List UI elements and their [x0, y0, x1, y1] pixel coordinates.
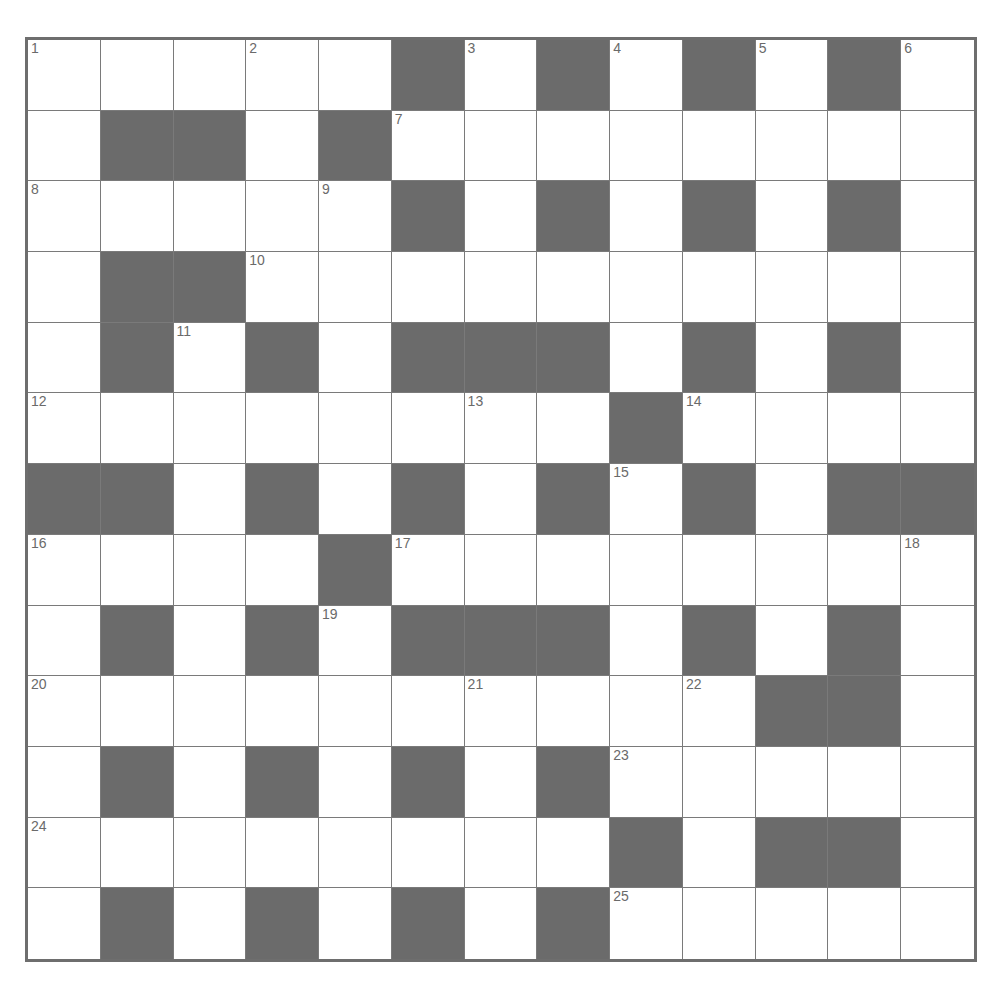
crossword-cell[interactable] [319, 818, 392, 889]
crossword-cell[interactable]: 9 [319, 181, 392, 252]
crossword-cell[interactable]: 1 [28, 40, 101, 111]
crossword-cell[interactable] [174, 606, 247, 677]
crossword-cell[interactable] [465, 747, 538, 818]
crossword-cell[interactable] [319, 40, 392, 111]
crossword-cell[interactable] [101, 181, 174, 252]
crossword-cell[interactable] [683, 888, 756, 959]
crossword-cell[interactable]: 24 [28, 818, 101, 889]
crossword-cell[interactable] [901, 252, 974, 323]
crossword-cell[interactable]: 19 [319, 606, 392, 677]
crossword-cell[interactable] [28, 252, 101, 323]
crossword-cell[interactable] [174, 818, 247, 889]
crossword-cell[interactable]: 11 [174, 323, 247, 394]
crossword-cell[interactable]: 5 [756, 40, 829, 111]
crossword-cell[interactable] [537, 676, 610, 747]
crossword-cell[interactable] [756, 464, 829, 535]
crossword-cell[interactable]: 14 [683, 393, 756, 464]
crossword-cell[interactable] [246, 676, 319, 747]
crossword-cell[interactable] [901, 747, 974, 818]
crossword-cell[interactable] [465, 818, 538, 889]
crossword-cell[interactable] [537, 111, 610, 182]
crossword-cell[interactable] [756, 393, 829, 464]
crossword-cell[interactable] [828, 535, 901, 606]
crossword-cell[interactable] [174, 888, 247, 959]
crossword-cell[interactable]: 20 [28, 676, 101, 747]
crossword-cell[interactable] [683, 535, 756, 606]
crossword-cell[interactable] [756, 111, 829, 182]
crossword-cell[interactable] [828, 747, 901, 818]
crossword-cell[interactable] [610, 252, 683, 323]
crossword-cell[interactable] [174, 676, 247, 747]
crossword-cell[interactable] [246, 818, 319, 889]
crossword-cell[interactable] [28, 747, 101, 818]
crossword-cell[interactable]: 4 [610, 40, 683, 111]
crossword-cell[interactable] [465, 181, 538, 252]
crossword-cell[interactable] [174, 464, 247, 535]
crossword-cell[interactable]: 25 [610, 888, 683, 959]
crossword-cell[interactable]: 10 [246, 252, 319, 323]
crossword-cell[interactable]: 16 [28, 535, 101, 606]
crossword-cell[interactable] [756, 181, 829, 252]
crossword-cell[interactable] [901, 818, 974, 889]
crossword-cell[interactable]: 15 [610, 464, 683, 535]
crossword-cell[interactable] [319, 252, 392, 323]
crossword-cell[interactable] [683, 818, 756, 889]
crossword-cell[interactable] [537, 818, 610, 889]
crossword-cell[interactable] [683, 252, 756, 323]
crossword-cell[interactable] [174, 181, 247, 252]
crossword-cell[interactable] [465, 535, 538, 606]
crossword-cell[interactable] [28, 606, 101, 677]
crossword-cell[interactable] [465, 111, 538, 182]
crossword-cell[interactable] [756, 535, 829, 606]
crossword-cell[interactable] [610, 111, 683, 182]
crossword-cell[interactable] [756, 606, 829, 677]
crossword-cell[interactable] [392, 676, 465, 747]
crossword-cell[interactable] [319, 888, 392, 959]
crossword-cell[interactable] [174, 393, 247, 464]
crossword-cell[interactable] [101, 393, 174, 464]
crossword-cell[interactable] [465, 464, 538, 535]
crossword-cell[interactable] [537, 535, 610, 606]
crossword-cell[interactable] [537, 393, 610, 464]
crossword-cell[interactable] [319, 393, 392, 464]
crossword-cell[interactable] [101, 818, 174, 889]
crossword-cell[interactable] [683, 747, 756, 818]
crossword-cell[interactable] [319, 676, 392, 747]
crossword-cell[interactable]: 21 [465, 676, 538, 747]
crossword-cell[interactable] [828, 393, 901, 464]
crossword-cell[interactable] [901, 393, 974, 464]
crossword-cell[interactable] [828, 252, 901, 323]
crossword-cell[interactable] [610, 606, 683, 677]
crossword-cell[interactable] [246, 181, 319, 252]
crossword-cell[interactable] [756, 252, 829, 323]
crossword-cell[interactable] [392, 818, 465, 889]
crossword-cell[interactable] [901, 676, 974, 747]
crossword-cell[interactable]: 6 [901, 40, 974, 111]
crossword-cell[interactable] [101, 676, 174, 747]
crossword-cell[interactable] [28, 323, 101, 394]
crossword-cell[interactable] [28, 111, 101, 182]
crossword-cell[interactable] [901, 606, 974, 677]
crossword-cell[interactable] [246, 393, 319, 464]
crossword-cell[interactable] [174, 535, 247, 606]
crossword-cell[interactable] [901, 181, 974, 252]
crossword-cell[interactable] [756, 747, 829, 818]
crossword-cell[interactable] [610, 676, 683, 747]
crossword-cell[interactable] [901, 888, 974, 959]
crossword-cell[interactable] [610, 181, 683, 252]
crossword-cell[interactable] [828, 111, 901, 182]
crossword-cell[interactable]: 17 [392, 535, 465, 606]
crossword-cell[interactable] [319, 747, 392, 818]
crossword-cell[interactable]: 22 [683, 676, 756, 747]
crossword-cell[interactable]: 2 [246, 40, 319, 111]
crossword-cell[interactable]: 7 [392, 111, 465, 182]
crossword-cell[interactable] [756, 888, 829, 959]
crossword-cell[interactable] [465, 252, 538, 323]
crossword-cell[interactable] [101, 535, 174, 606]
crossword-cell[interactable] [246, 111, 319, 182]
crossword-cell[interactable]: 13 [465, 393, 538, 464]
crossword-cell[interactable] [683, 111, 756, 182]
crossword-cell[interactable] [537, 252, 610, 323]
crossword-cell[interactable] [101, 40, 174, 111]
crossword-cell[interactable] [174, 747, 247, 818]
